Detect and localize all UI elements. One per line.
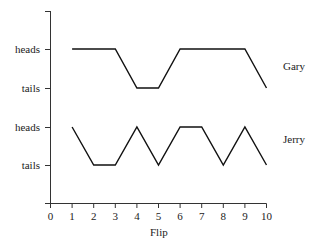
x-tick-label: 4 <box>127 210 147 222</box>
x-tick-label: 10 <box>257 210 277 222</box>
x-tick-label: 3 <box>105 210 125 222</box>
x-tick-label: 9 <box>235 210 255 222</box>
y-label-jerry-tails: tails <box>0 159 40 171</box>
x-tick-label: 8 <box>213 210 233 222</box>
axes <box>45 11 267 204</box>
x-tick-label: 6 <box>170 210 190 222</box>
series-label-jerry: Jerry <box>283 133 305 145</box>
y-label-gary-heads: heads <box>0 43 40 55</box>
x-tick-label: 2 <box>84 210 104 222</box>
x-tick-label: 5 <box>149 210 169 222</box>
x-axis-label: Flip <box>150 226 168 238</box>
x-tick-label: 1 <box>62 210 82 222</box>
series-line-jerry <box>72 127 266 165</box>
series-label-gary: Gary <box>283 60 305 72</box>
y-label-jerry-heads: heads <box>0 121 40 133</box>
y-label-gary-tails: tails <box>0 82 40 94</box>
x-tick-label: 7 <box>192 210 212 222</box>
series-line-gary <box>72 49 266 88</box>
x-tick-label: 0 <box>41 210 61 222</box>
